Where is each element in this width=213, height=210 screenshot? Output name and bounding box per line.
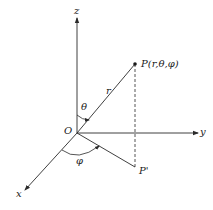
x-axis xyxy=(25,133,77,190)
projection-line xyxy=(77,133,135,167)
y-axis-label: y xyxy=(200,127,206,137)
point-p-dot xyxy=(133,62,137,66)
z-axis-label: z xyxy=(74,6,79,16)
theta-arc xyxy=(77,115,89,120)
theta-label: θ xyxy=(81,102,87,112)
radius-label: r xyxy=(106,86,111,96)
point-p-label: P(r,θ,φ) xyxy=(141,59,179,69)
radius-line xyxy=(77,64,135,133)
x-axis-label: x xyxy=(16,189,22,199)
spherical-coordinates-diagram xyxy=(0,0,213,210)
projection-p-prime-label: P' xyxy=(139,166,148,176)
origin-label: O xyxy=(64,126,72,136)
phi-label: φ xyxy=(76,156,83,166)
phi-arc xyxy=(62,146,99,155)
